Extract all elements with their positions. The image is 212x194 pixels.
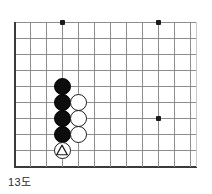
grid-line-vertical-7 [126, 22, 127, 167]
black-stone-1[interactable] [54, 78, 71, 95]
grid-line-vertical-10 [174, 22, 175, 167]
grid-line-horizontal-0 [14, 22, 197, 23]
grid-line-horizontal-3 [14, 70, 197, 71]
black-stone-2[interactable] [54, 94, 71, 111]
black-stone-4[interactable] [54, 126, 71, 143]
grid-line-horizontal-9 [14, 166, 197, 168]
grid-line-vertical-1 [30, 22, 31, 167]
grid-line-vertical-5 [94, 22, 95, 167]
grid-line-vertical-faded-0 [196, 22, 197, 167]
white-stone-3[interactable] [70, 126, 87, 143]
grid-line-vertical-0 [14, 22, 16, 168]
grid-line-vertical-2 [46, 22, 47, 167]
grid-line-horizontal-6 [14, 118, 197, 119]
triangle-mark-icon [56, 145, 68, 156]
hoshi-top-right-icon [156, 20, 161, 25]
go-diagram-figure: 13도 [0, 0, 212, 194]
grid-line-horizontal-4 [14, 86, 197, 87]
grid-line-vertical-9 [158, 22, 159, 167]
grid-line-vertical-6 [110, 22, 111, 167]
grid-line-horizontal-7 [14, 134, 197, 135]
white-stone-1[interactable] [70, 94, 87, 111]
white-stone-triangle[interactable] [54, 142, 71, 159]
grid-line-horizontal-2 [14, 54, 197, 55]
grid-line-vertical-11 [190, 22, 191, 167]
white-stone-2[interactable] [70, 110, 87, 127]
grid-line-horizontal-8 [14, 150, 197, 151]
grid-line-horizontal-1 [14, 38, 197, 39]
black-stone-3[interactable] [54, 110, 71, 127]
grid-line-horizontal-5 [14, 102, 197, 103]
grid-line-vertical-8 [142, 22, 143, 167]
go-board [0, 0, 212, 172]
hoshi-top-left-icon [60, 20, 65, 25]
hoshi-center-right-icon [156, 116, 161, 121]
figure-caption: 13도 [8, 176, 32, 189]
